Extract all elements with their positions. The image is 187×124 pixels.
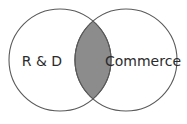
set-label-commerce: Commerce (105, 53, 181, 69)
venn-diagram: R & D Commerce (0, 0, 187, 124)
set-label-rnd: R & D (22, 53, 62, 69)
